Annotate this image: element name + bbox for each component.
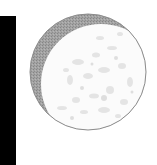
moon-phase-illustration: [0, 0, 157, 165]
moon-lit-region: [41, 24, 157, 144]
